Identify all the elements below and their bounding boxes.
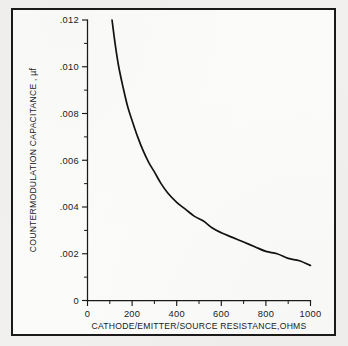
y-axis-title: COUNTERMODULATION CAPACITANCE , µf [28, 67, 38, 252]
y-tick-label: .002 [60, 249, 79, 259]
y-axis-tick-labels: 0.002.004.006.008.010.012 [60, 15, 79, 306]
x-axis-tick-labels: 02004006008001000 [85, 309, 322, 319]
y-tick-label: .010 [60, 62, 79, 72]
countermodulation-capacitance-chart: 0.002.004.006.008.010.012 02004006008001… [0, 0, 348, 346]
x-tick-label: 1000 [300, 309, 322, 319]
x-tick-label: 0 [85, 309, 90, 319]
y-axis-ticks [82, 20, 88, 301]
y-tick-label: .012 [60, 15, 79, 25]
figure-page: 0.002.004.006.008.010.012 02004006008001… [0, 0, 348, 346]
y-tick-label: .004 [60, 202, 79, 212]
x-tick-label: 400 [168, 309, 184, 319]
plot-area-wrapper: 0.002.004.006.008.010.012 02004006008001… [0, 0, 348, 346]
y-tick-label: .008 [60, 109, 79, 119]
y-tick-label: .006 [60, 156, 79, 166]
data-curve-countermodulation-capacitance [112, 20, 310, 265]
x-axis-ticks [88, 301, 311, 307]
x-tick-label: 800 [258, 309, 274, 319]
x-axis-title: CATHODE/EMITTER/SOURCE RESISTANCE,OHMS [92, 321, 307, 331]
x-tick-label: 600 [213, 309, 229, 319]
x-tick-label: 200 [124, 309, 140, 319]
y-tick-label: 0 [74, 296, 79, 306]
